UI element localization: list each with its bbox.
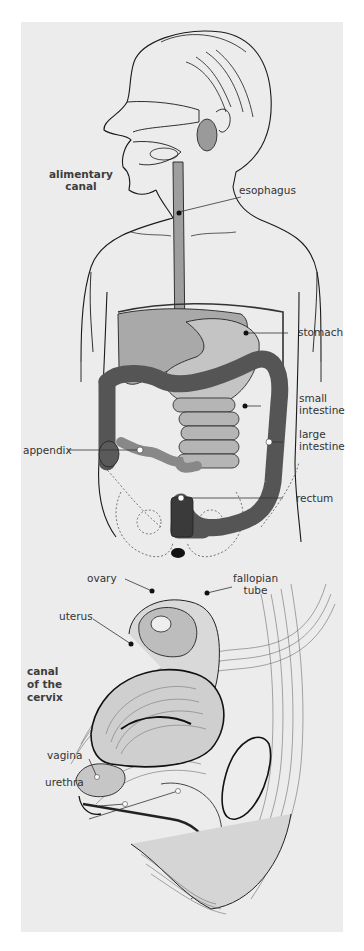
salivary-gland: [197, 119, 217, 151]
left-arm: [81, 272, 93, 382]
female-pelvis-panel: ovary fallopian tube uterus canal of the…: [21, 564, 343, 932]
oral-cavity: [133, 141, 181, 164]
digestive-system-panel: alimentary canal esophagus stomach small…: [21, 22, 343, 564]
label-rectum: rectum: [296, 492, 333, 504]
label-ovary: ovary: [87, 572, 117, 584]
nasal-cavity: [127, 101, 199, 132]
label-esophagus: esophagus: [239, 184, 296, 196]
label-stomach: stomach: [298, 326, 343, 338]
lower-body: [131, 814, 291, 909]
uterus-organ: [91, 670, 224, 767]
head-outline: [134, 31, 271, 187]
label-uterus: uterus: [59, 610, 93, 622]
rectum-organ: [171, 497, 193, 537]
label-large-intestine: large intestine: [299, 428, 345, 452]
label-appendix: appendix: [23, 444, 72, 456]
clavicle-right: [191, 232, 236, 236]
cecum: [99, 441, 119, 467]
label-small-intestine: small intestine: [299, 392, 345, 416]
label-canal-of-the-cervix: canal of the cervix: [27, 665, 63, 704]
ear: [216, 109, 230, 132]
label-urethra: urethra: [45, 776, 84, 788]
right-shoulder: [261, 220, 321, 362]
digestive-system-illustration: [21, 22, 343, 564]
label-alimentary-canal: alimentary canal: [49, 168, 113, 192]
label-vagina: vagina: [47, 749, 82, 761]
small-intestine-organ: [121, 398, 239, 468]
clavicle-left: [131, 232, 171, 236]
anus: [171, 548, 185, 558]
label-fallopian-tube: fallopian tube: [233, 572, 278, 596]
neck-front: [156, 190, 173, 218]
